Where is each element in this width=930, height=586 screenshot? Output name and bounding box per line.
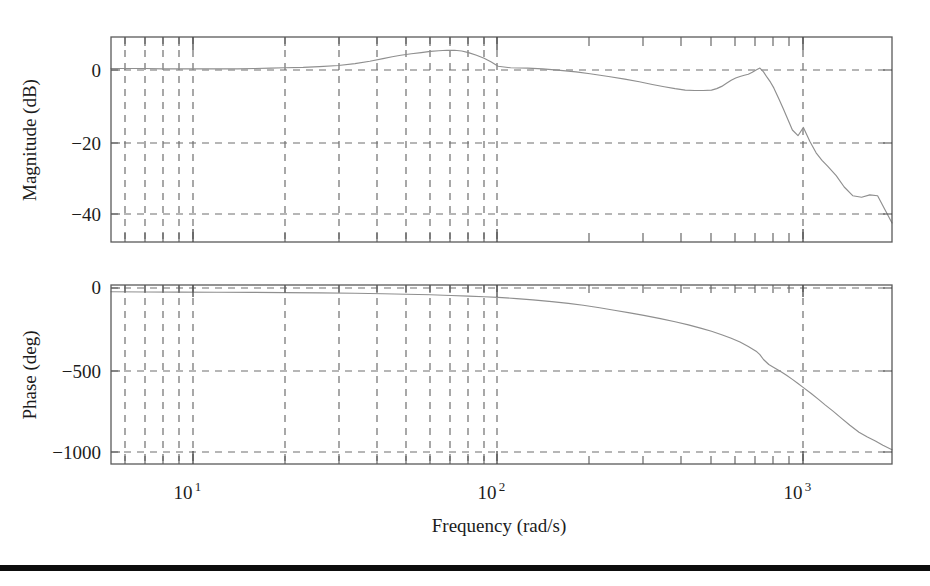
bode-plot-svg: 0 −20 −40 Magnitude (dB) [0,0,930,586]
xtick-label-10: 10 [174,482,193,503]
xtick-label-1000: 10 [784,482,803,503]
magnitude-curve [111,50,892,223]
xtick-exponent-2: 2 [499,479,506,494]
xtick-exponent-1: 1 [195,479,202,494]
phase-axes-frame [111,285,892,464]
xtick-label-100: 10 [478,482,497,503]
bottom-divider-rule [0,565,930,571]
magnitude-top-ticks [125,37,803,50]
frequency-axis-label: Frequency (rad/s) [432,515,567,537]
magnitude-ytick-label-minus40: −40 [71,204,101,225]
phase-top-ticks [125,285,803,297]
magnitude-panel: 0 −20 −40 Magnitude (dB) [19,37,892,242]
magnitude-y-ticks [111,70,892,214]
x-tick-labels: 10 1 10 2 10 3 [174,479,812,503]
bode-plot-figure: 0 −20 −40 Magnitude (dB) [0,0,930,586]
phase-bottom-ticks [125,451,803,464]
magnitude-horizontal-gridlines [111,70,892,214]
phase-vertical-gridlines [125,285,803,464]
phase-panel: 0 −500 −1000 Phase (deg) [19,277,892,464]
xtick-exponent-3: 3 [805,479,812,494]
magnitude-ytick-label-minus20: −20 [71,133,101,154]
phase-ytick-label-minus500: −500 [62,361,101,382]
magnitude-bottom-ticks [125,229,803,242]
phase-ytick-label-minus1000: −1000 [52,442,101,463]
phase-horizontal-gridlines [111,288,892,452]
magnitude-axis-label: Magnitude (dB) [19,79,41,201]
magnitude-ytick-label-0: 0 [92,60,102,81]
phase-axis-label: Phase (deg) [19,330,41,419]
magnitude-axes-frame [111,37,892,242]
phase-ytick-label-0: 0 [92,277,102,298]
magnitude-vertical-gridlines [125,37,803,242]
phase-y-ticks [111,288,892,452]
